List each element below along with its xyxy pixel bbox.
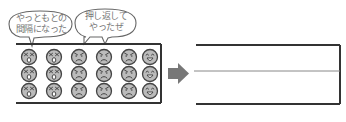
angry-face-icon	[122, 50, 137, 65]
bubble-2-line2: やったぜ	[78, 22, 134, 33]
right-arrow-icon	[168, 63, 189, 84]
angry-face-icon	[72, 67, 87, 82]
shocked-face-icon	[22, 50, 37, 65]
shocked-face-icon	[22, 84, 37, 99]
bubble-1-line2: 間隔になった	[12, 24, 70, 35]
shocked-face-icon	[47, 84, 62, 99]
angry-face-icon	[97, 67, 112, 82]
bubble-1-line1: やっともとの	[12, 13, 70, 24]
left-container	[16, 44, 161, 103]
bubble-2-text: 押し返して やったぜ	[78, 11, 134, 33]
bubble-1-text: やっともとの 間隔になった	[12, 13, 70, 35]
angry-face-icon	[72, 50, 87, 65]
shocked-face-icon	[22, 67, 37, 82]
faces-grid	[22, 50, 158, 99]
right-container	[194, 45, 340, 104]
shocked-face-icon	[47, 67, 62, 82]
angry-face-icon	[72, 84, 87, 99]
shocked-face-icon	[47, 50, 62, 65]
happy-face-icon	[143, 84, 158, 99]
angry-face-icon	[122, 84, 137, 99]
angry-face-icon	[97, 50, 112, 65]
happy-face-icon	[143, 50, 158, 65]
happy-face-icon	[143, 67, 158, 82]
bubble-2-line1: 押し返して	[78, 11, 134, 22]
angry-face-icon	[97, 84, 112, 99]
angry-face-icon	[122, 67, 137, 82]
